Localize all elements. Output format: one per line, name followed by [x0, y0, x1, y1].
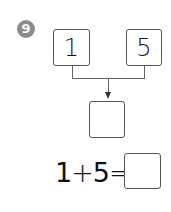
connector-stem-left [72, 66, 73, 78]
addend-box-1: 1 [53, 29, 90, 66]
equation-operator: + [71, 157, 93, 188]
arrow-down-icon [105, 92, 111, 99]
equation-answer-box[interactable] [124, 153, 161, 189]
equation: 1 + 5 = [55, 155, 131, 189]
sum-answer-box[interactable] [89, 101, 125, 138]
equation-left: 1 [55, 157, 71, 188]
connector-stem-right [144, 66, 145, 78]
addend-1-value: 1 [64, 34, 79, 62]
addend-box-2: 5 [126, 29, 162, 66]
connector-down [108, 78, 109, 93]
equation-right: 5 [93, 157, 109, 188]
problem-number-badge: 9 [17, 20, 35, 38]
addend-2-value: 5 [136, 34, 151, 62]
